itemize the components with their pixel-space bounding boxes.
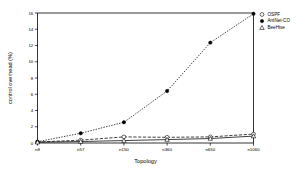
data-point xyxy=(122,121,125,124)
chart-legend: OSPFAntNet-COBeeHive xyxy=(260,12,291,30)
chart-canvas: 0246810121416 n8n57n150n360n650n1060 Top… xyxy=(0,0,307,184)
legend-item: BeeHive xyxy=(260,25,286,30)
y-axis-title: control overhead (%) xyxy=(7,52,13,104)
y-axis-ticks: 0246810121416 xyxy=(28,11,37,146)
chart-figure: 0246810121416 n8n57n150n360n650n1060 Top… xyxy=(0,0,307,184)
x-tick-label: n360 xyxy=(162,147,172,152)
x-tick-label: n150 xyxy=(119,147,129,152)
series-beehive xyxy=(35,134,255,144)
data-point xyxy=(209,41,212,44)
series-antnet-co xyxy=(36,12,255,143)
x-tick-label: n650 xyxy=(205,147,215,152)
x-axis-title: Topology xyxy=(134,158,157,164)
y-tick-label: 8 xyxy=(31,76,34,81)
data-point xyxy=(79,132,82,135)
series-layer xyxy=(35,12,255,144)
legend-marker-icon xyxy=(260,19,263,22)
y-tick-label: 12 xyxy=(28,43,33,48)
y-tick-label: 10 xyxy=(28,59,33,64)
x-tick-label: n8 xyxy=(35,147,40,152)
x-tick-label: n57 xyxy=(77,147,85,152)
legend-label: BeeHive xyxy=(268,25,286,30)
legend-label: AntNet-CO xyxy=(268,18,291,23)
y-tick-label: 2 xyxy=(31,124,34,129)
x-tick-label: n1060 xyxy=(247,147,260,152)
legend-marker-icon xyxy=(260,26,264,30)
y-tick-label: 6 xyxy=(31,92,34,97)
data-point xyxy=(165,89,168,92)
y-tick-label: 0 xyxy=(31,141,34,146)
legend-label: OSPF xyxy=(268,12,281,17)
series-line xyxy=(38,14,254,142)
legend-item: OSPF xyxy=(260,12,280,17)
x-axis-ticks: n8n57n150n360n650n1060 xyxy=(35,143,260,152)
data-point xyxy=(252,12,255,15)
legend-item: AntNet-CO xyxy=(260,18,290,23)
legend-marker-icon xyxy=(260,13,264,17)
y-tick-label: 16 xyxy=(28,11,33,16)
y-tick-label: 14 xyxy=(28,27,33,32)
y-tick-label: 4 xyxy=(31,108,34,113)
